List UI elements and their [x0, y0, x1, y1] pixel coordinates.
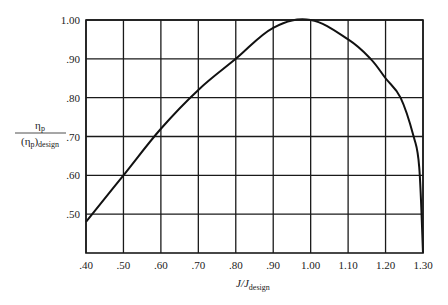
x-axis-tick-labels: .40.50.60.70.80.901.001.101.201.30 — [79, 259, 433, 271]
y-tick-label: .70 — [66, 131, 80, 143]
x-tick-label: .90 — [266, 259, 280, 271]
y-tick-label: .60 — [66, 169, 80, 181]
y-axis-tick-labels: .50.60.70.80.901.00 — [61, 14, 81, 220]
x-tick-label: 1.30 — [413, 259, 433, 271]
x-tick-label: .50 — [117, 259, 131, 271]
x-tick-label: 1.20 — [376, 259, 396, 271]
x-tick-label: .80 — [229, 259, 243, 271]
x-tick-label: 1.10 — [338, 259, 358, 271]
x-tick-label: .60 — [154, 259, 168, 271]
x-axis-label: J/Jdesign — [236, 277, 270, 292]
x-tick-label: 1.00 — [301, 259, 321, 271]
grid-lines — [86, 20, 423, 253]
x-tick-label: .40 — [79, 259, 93, 271]
y-tick-label: .50 — [66, 208, 80, 220]
x-tick-label: .70 — [191, 259, 205, 271]
svg-text:J/Jdesign: J/Jdesign — [236, 277, 270, 292]
efficiency-chart: .40.50.60.70.80.901.001.101.201.30 .50.6… — [0, 0, 448, 305]
svg-text:(ηp)design: (ηp)design — [21, 135, 59, 149]
y-tick-label: 1.00 — [61, 14, 81, 26]
y-tick-label: .80 — [66, 92, 80, 104]
y-tick-label: .90 — [66, 53, 80, 65]
y-axis-label: ηp (ηp)design — [15, 119, 66, 149]
svg-text:ηp: ηp — [35, 119, 45, 133]
